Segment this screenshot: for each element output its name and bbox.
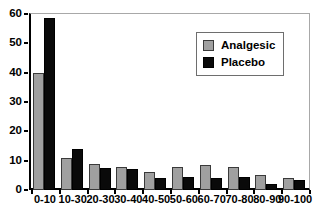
y-tick-mark [24,42,28,44]
bar-analgesic [116,167,127,190]
bar-analgesic [144,172,155,190]
y-tick-label: 50 [9,38,22,50]
bar-placebo [155,178,166,190]
bar-analgesic [172,167,183,190]
bar-group [59,14,87,190]
x-tick-label: 20-30 [86,193,114,206]
bar-group [142,14,170,190]
legend-label: Placebo [221,57,265,69]
bar-analgesic [89,164,100,190]
legend-swatch-analgesic [203,40,214,51]
bar-placebo [127,169,138,190]
bar-placebo [72,149,83,190]
y-tick-label: 30 [9,96,22,108]
x-tick-label: 50-60 [170,193,198,206]
bar-group [281,14,309,190]
chart-legend: AnalgesicPlacebo [196,32,284,76]
y-axis: 0102030405060 [0,0,29,213]
bar-analgesic [255,175,266,190]
y-tick-mark [24,130,28,132]
bar-analgesic [228,167,239,190]
y-tick-label: 10 [9,155,22,167]
y-tick-mark [24,160,28,162]
bar-analgesic [283,178,294,190]
bar-chart: 0102030405060 0-1010-3020-3030-4040-5050… [0,0,316,213]
y-tick-label: 60 [9,8,22,20]
bar-group [170,14,198,190]
legend-label: Analgesic [221,40,275,52]
legend-swatch-placebo [203,57,214,68]
x-tick-label: 60-70 [198,193,226,206]
bar-group [114,14,142,190]
bar-placebo [183,177,194,190]
y-tick-mark [24,13,28,15]
x-tick-label: 10-30 [59,193,87,206]
bar-placebo [294,180,305,190]
y-tick-label: 20 [9,126,22,138]
x-tick-label: 90-100 [278,193,312,206]
y-tick-mark [24,189,28,191]
legend-item: Placebo [203,54,275,71]
x-tick-label: 30-40 [114,193,142,206]
bar-group [31,14,59,190]
legend-item: Analgesic [203,37,275,54]
x-tick-label: 70-80 [225,193,253,206]
y-tick-label: 40 [9,67,22,79]
bar-placebo [100,168,111,190]
bar-analgesic [61,158,72,190]
bar-group [87,14,115,190]
bar-placebo [211,178,222,190]
bar-analgesic [200,165,211,190]
y-tick-mark [24,101,28,103]
bar-placebo [239,177,250,190]
x-tick-label: 0-10 [34,193,56,206]
x-tick-label: 40-50 [142,193,170,206]
bar-analgesic [33,73,44,190]
y-tick-mark [24,72,28,74]
x-axis: 0-1010-3020-3030-4040-5050-6060-7070-808… [0,193,316,213]
bar-placebo [44,18,55,190]
